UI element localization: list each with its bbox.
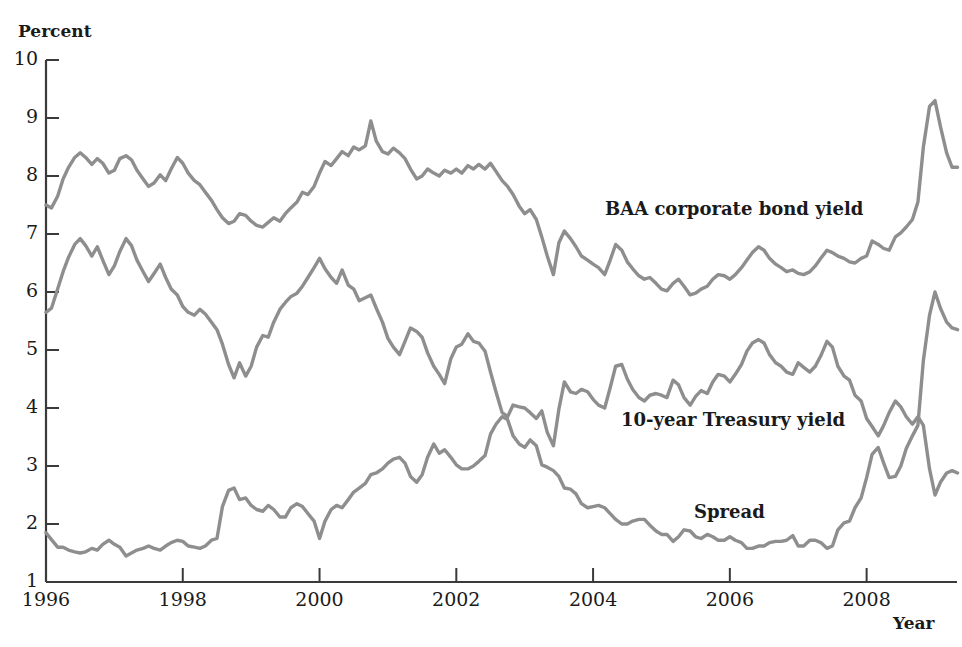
y-tick-label: 5	[0, 337, 38, 359]
x-tick-label: 2004	[553, 588, 633, 610]
x-tick-label: 1996	[6, 588, 86, 610]
y-axis-title: Percent	[18, 21, 91, 41]
x-axis-title: Year	[893, 613, 934, 633]
series-label-baa-corporate-bond-yield: BAA corporate bond yield	[605, 198, 863, 219]
chart-plot-area	[0, 0, 962, 647]
y-tick-label: 4	[0, 395, 38, 417]
series-label-10-year-treasury-yield: 10-year Treasury yield	[621, 409, 845, 430]
y-tick-label: 8	[0, 163, 38, 185]
x-tick-label: 1998	[143, 588, 223, 610]
y-tick-label: 9	[0, 105, 38, 127]
y-tick-label: 7	[0, 221, 38, 243]
chart-container: Percent Year 12345678910 199619982000200…	[0, 0, 962, 647]
y-tick-label: 6	[0, 279, 38, 301]
y-tick-label: 10	[0, 47, 38, 69]
x-tick-label: 2006	[690, 588, 770, 610]
series-group	[46, 101, 958, 556]
axis-group	[46, 60, 957, 582]
y-tick-label: 2	[0, 511, 38, 533]
series-label-spread: Spread	[694, 501, 765, 522]
x-tick-label: 2000	[280, 588, 360, 610]
series-line-10-year-treasury-yield	[46, 239, 958, 495]
y-tick-label: 3	[0, 453, 38, 475]
x-tick-label: 2008	[827, 588, 907, 610]
x-tick-label: 2002	[416, 588, 496, 610]
